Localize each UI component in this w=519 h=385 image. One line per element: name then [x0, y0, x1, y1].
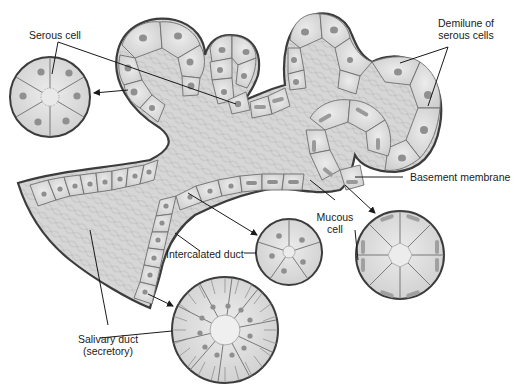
label-mucous-cell: Mucous cell [312, 211, 358, 235]
label-mucous-line1: Mucous [312, 211, 358, 223]
label-intercalated-duct: Intercalated duct [166, 248, 244, 260]
label-salivary-line1: Salivary duct [72, 333, 144, 345]
salivary-gland-diagram: Serous cell Demilune of serous cells Bas… [0, 0, 519, 385]
mucous-acinus-cross-section [356, 211, 444, 299]
label-serous-cell: Serous cell [29, 29, 81, 41]
salivary-duct-cross-section [172, 277, 278, 383]
label-demilune-line1: Demilune of [425, 17, 507, 29]
label-mucous-line2: cell [312, 223, 358, 235]
label-demilune: Demilune of serous cells [425, 17, 507, 41]
label-demilune-line2: serous cells [425, 29, 507, 41]
diagram-canvas [0, 0, 519, 385]
label-salivary-line2: (secretory) [72, 345, 144, 357]
label-salivary-duct: Salivary duct (secretory) [72, 333, 144, 357]
label-basement-membrane: Basement membrane [410, 171, 510, 183]
serous-acinus-cross-section [10, 57, 90, 137]
